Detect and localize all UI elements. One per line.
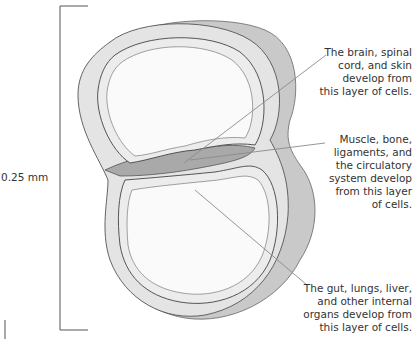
label-mesoderm: Muscle, bone, ligaments, and the circula…	[329, 133, 412, 211]
label-ectoderm: The brain, spinal cord, and skin develop…	[319, 46, 412, 98]
scale-bracket	[60, 6, 88, 330]
label-endoderm: The gut, lungs, liver, and other interna…	[303, 282, 412, 334]
scale-label: 0.25 mm	[1, 171, 48, 183]
